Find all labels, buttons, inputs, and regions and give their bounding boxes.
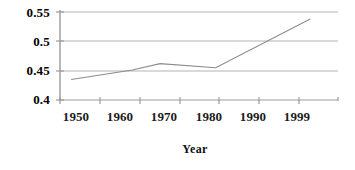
- x-axis-tick-label: 1999: [273, 110, 321, 124]
- x-axis-tick-label: 1950: [52, 110, 100, 124]
- x-axis-title: Year: [135, 142, 255, 157]
- x-axis-tick-label: 1990: [229, 110, 277, 124]
- x-axis-tick-label: 1970: [140, 110, 188, 124]
- x-axis-tick-label: 1960: [96, 110, 144, 124]
- x-axis-tick-label: 1980: [185, 110, 233, 124]
- chart-figure: 0.55 0.5 0.45 0.4: [0, 0, 355, 170]
- gridlines: [60, 12, 338, 71]
